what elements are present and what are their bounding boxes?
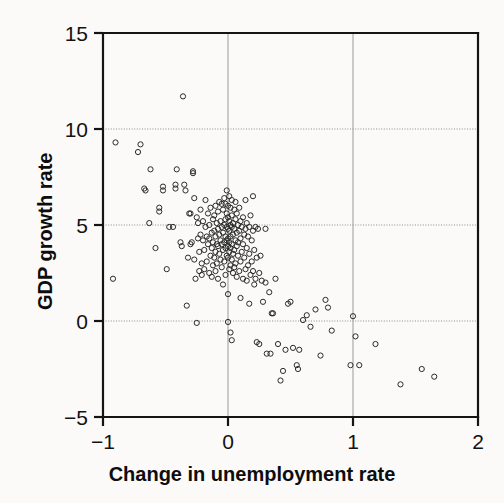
y-axis-label: GDP growth rate	[34, 153, 57, 310]
svg-text:5: 5	[76, 214, 88, 237]
svg-text:1: 1	[347, 430, 359, 453]
svg-text:0: 0	[222, 430, 234, 453]
svg-text:10: 10	[65, 118, 88, 141]
axis-tick-labels: −5051015−1012	[64, 22, 484, 454]
svg-text:2: 2	[472, 430, 484, 453]
svg-text:15: 15	[65, 22, 88, 45]
svg-text:0: 0	[76, 310, 88, 333]
scatter-plot-figure: −5051015−1012 GDP growth rate Change in …	[0, 0, 504, 503]
gridlines	[103, 33, 478, 417]
svg-text:−5: −5	[64, 406, 88, 429]
x-axis-label: Change in unemployment rate	[0, 463, 504, 486]
svg-text:−1: −1	[91, 430, 115, 453]
plot-canvas: −5051015−1012	[0, 0, 504, 503]
data-points	[110, 94, 436, 387]
